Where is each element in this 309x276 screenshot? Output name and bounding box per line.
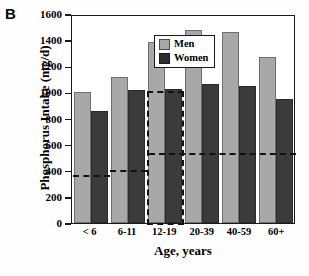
- bar-women: [91, 111, 108, 223]
- plot-area: Men Women: [71, 15, 295, 224]
- bar-group: [109, 16, 146, 223]
- y-tick-label: 200: [26, 192, 62, 203]
- bar-men: [111, 77, 128, 223]
- refline-rda-children-high: [110, 170, 147, 172]
- bar-group: [72, 16, 109, 223]
- figure-panel: B Phosphorus Intake (mg/d) 0200400600800…: [0, 0, 309, 276]
- x-axis-tick-labels: < 66-1112-1920-3940-5960+: [71, 226, 295, 237]
- bar-men: [74, 92, 91, 223]
- y-tick-label: 800: [26, 114, 62, 125]
- panel-letter: B: [5, 6, 16, 21]
- x-tick-label: 40-59: [220, 226, 257, 237]
- x-axis-title: Age, years: [71, 243, 295, 259]
- y-tick-label: 400: [26, 166, 62, 177]
- legend-item-men: Men: [159, 39, 208, 50]
- bar-men: [259, 57, 276, 223]
- bar-group: [220, 16, 257, 223]
- refbox-rda-adolescent: [147, 91, 183, 225]
- y-tick-label: 600: [26, 140, 62, 151]
- legend: Men Women: [154, 35, 215, 68]
- x-tick-label: 6-11: [108, 226, 145, 237]
- legend-item-women: Women: [159, 53, 208, 64]
- refline-rda-children-low: [73, 175, 110, 177]
- y-tick-label: 1000: [26, 87, 62, 98]
- legend-label-men: Men: [174, 39, 194, 50]
- legend-label-women: Women: [174, 53, 208, 64]
- x-tick-label: 60+: [258, 226, 295, 237]
- x-tick-label: 20-39: [183, 226, 220, 237]
- legend-swatch-women-icon: [159, 53, 170, 64]
- y-tick-label: 0: [26, 218, 62, 229]
- x-tick-label: < 6: [71, 226, 108, 237]
- y-tick-label: 1400: [26, 35, 62, 46]
- bar-women: [128, 90, 145, 223]
- bar-men: [222, 32, 239, 223]
- bar-women: [276, 99, 293, 223]
- x-tick-label: 12-19: [146, 226, 183, 237]
- legend-swatch-men-icon: [159, 39, 170, 50]
- bar-group: [257, 16, 294, 223]
- y-tick-label: 1600: [26, 9, 62, 20]
- y-tick-label: 1200: [26, 61, 62, 72]
